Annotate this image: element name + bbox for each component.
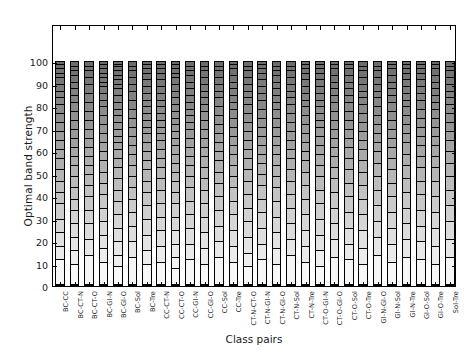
bar-segment: [244, 92, 252, 99]
x-tick-label: CC-Gl-N: [192, 291, 200, 318]
bar-segment: [157, 231, 165, 247]
bar-segment: [446, 177, 454, 191]
y-tick-mark: [53, 86, 57, 87]
bar-segment: [388, 148, 396, 159]
bar-segment: [273, 249, 281, 265]
bar-segment: [172, 218, 180, 232]
bar-segment: [186, 110, 194, 117]
bar-segment: [244, 132, 252, 141]
bar-segment: [114, 150, 122, 159]
bar-segment: [129, 188, 137, 199]
bar-segment: [432, 96, 440, 103]
x-tick-label: CT-O-Gl-N: [322, 291, 330, 325]
bar-segment: [331, 65, 339, 70]
bar-segment: [172, 61, 180, 65]
bar-segment: [388, 229, 396, 245]
bar-segment: [316, 61, 324, 65]
bar-segment: [230, 110, 238, 119]
bar-segment: [157, 179, 165, 190]
bar-segment: [71, 121, 79, 130]
bar-segment: [56, 78, 64, 85]
bar-segment: [287, 195, 295, 209]
bar-segment: [432, 119, 440, 128]
bar-segment: [186, 215, 194, 229]
y-tick-label: 100: [20, 57, 48, 68]
bar-segment: [273, 166, 281, 177]
bar-segment: [403, 61, 411, 65]
bar-segment: [273, 218, 281, 234]
bar-segment: [244, 123, 252, 132]
bar-segment: [215, 152, 223, 161]
bar-segment: [244, 209, 252, 223]
bar-segment: [143, 161, 151, 170]
x-tick-mark: [118, 282, 119, 286]
bar-segment: [230, 177, 238, 188]
bar-segment: [143, 61, 151, 65]
bar-segment: [417, 80, 425, 87]
x-tick-label: CT-N-Gl-O: [279, 291, 287, 325]
bar-segment: [359, 186, 367, 200]
bar-segment: [230, 96, 238, 103]
stacked-bar: [200, 61, 210, 286]
bar-segment: [388, 130, 396, 139]
bar-segment: [230, 155, 238, 166]
bar-segment: [157, 61, 165, 65]
bar-segment: [85, 130, 93, 139]
y-tick-mark-right: [452, 131, 456, 132]
bar-segment: [331, 139, 339, 148]
bar-segment: [287, 159, 295, 170]
bar-segment: [287, 209, 295, 225]
bar-segment: [114, 229, 122, 243]
bar-segment: [172, 85, 180, 92]
bar-segment: [230, 166, 238, 177]
x-tick-label: BC-Tre: [149, 291, 157, 312]
bar-segment: [287, 62, 295, 67]
bar-segment: [172, 258, 180, 269]
bar-segment: [316, 69, 324, 74]
bar-segment: [359, 114, 367, 123]
bar-segment: [186, 245, 194, 261]
stacked-bar: [301, 61, 311, 286]
bar-segment: [143, 74, 151, 81]
bar-segment: [114, 96, 122, 103]
bar-segment: [359, 92, 367, 99]
bar-segment: [374, 191, 382, 207]
bar-segment: [56, 123, 64, 132]
bar-segment: [359, 161, 367, 172]
bar-segment: [331, 157, 339, 168]
bar-segment: [316, 80, 324, 87]
bar-segment: [215, 184, 223, 198]
bar-segment: [201, 78, 209, 85]
bar-segment: [129, 119, 137, 128]
x-tick-mark-top: [277, 26, 278, 30]
bar-segment: [432, 76, 440, 83]
bar-segment: [403, 258, 411, 285]
bar-segment: [374, 71, 382, 78]
bar-segment: [316, 220, 324, 236]
bar-segment: [316, 137, 324, 146]
x-tick-mark: [320, 282, 321, 286]
bar-segment: [56, 105, 64, 114]
bar-segment: [345, 197, 353, 213]
bar-segment: [403, 143, 411, 154]
y-tick-mark: [53, 266, 57, 267]
bar-segment: [287, 61, 295, 62]
bar-segment: [403, 65, 411, 70]
bar-segment: [71, 188, 79, 199]
bar-segment: [186, 123, 194, 130]
bar-segment: [388, 76, 396, 83]
bar-segment: [186, 139, 194, 148]
bar-segment: [230, 215, 238, 231]
bar-segment: [114, 168, 122, 179]
bar-segment: [432, 146, 440, 157]
bar-segment: [331, 258, 339, 285]
x-tick-mark: [248, 282, 249, 286]
bar-segment: [273, 188, 281, 202]
bar-segment: [143, 251, 151, 265]
bar-segment: [201, 98, 209, 105]
bar-segment: [114, 202, 122, 216]
bar-segment: [359, 61, 367, 62]
bar-segment: [374, 116, 382, 125]
bar-segment: [331, 168, 339, 179]
bar-segment: [244, 67, 252, 72]
